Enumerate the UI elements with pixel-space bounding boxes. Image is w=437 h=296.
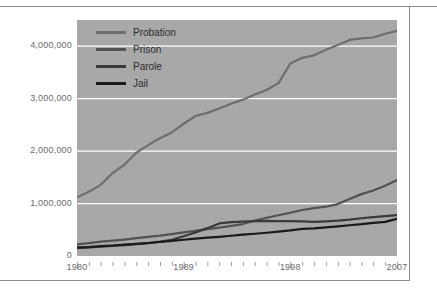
series-line-parole	[77, 215, 397, 248]
y-tick-label: 4,000,000	[4, 40, 72, 50]
x-tick-label: 2007	[387, 262, 408, 272]
x-tick-label: 1989	[173, 262, 194, 272]
legend-swatch-probation	[96, 31, 126, 34]
legend-swatch-prison	[96, 48, 126, 51]
chart-figure: 01,000,0002,000,0003,000,0004,000,000 19…	[0, 0, 437, 296]
x-tick-label: 1998	[280, 262, 301, 272]
legend-item-probation[interactable]: Probation	[96, 24, 226, 41]
y-tick-label: 1,000,000	[4, 198, 72, 208]
y-tick-label: 3,000,000	[4, 93, 72, 103]
legend-item-parole[interactable]: Parole	[96, 58, 226, 75]
legend-item-prison[interactable]: Prison	[96, 41, 226, 58]
y-tick-label: 0	[4, 250, 72, 260]
legend-label: Jail	[133, 78, 148, 89]
y-axis: 01,000,0002,000,0003,000,0004,000,000	[0, 0, 72, 296]
legend-label: Probation	[133, 27, 176, 38]
x-tick-label: 1980	[67, 262, 88, 272]
legend-label: Prison	[133, 44, 161, 55]
x-axis: 1980198919982007	[77, 262, 397, 282]
series-line-jail	[77, 219, 397, 248]
chart-legend: ProbationPrisonParoleJail	[96, 24, 226, 92]
legend-label: Parole	[133, 61, 162, 72]
legend-item-jail[interactable]: Jail	[96, 75, 226, 92]
legend-swatch-parole	[96, 65, 126, 68]
legend-swatch-jail	[96, 82, 126, 85]
y-tick-label: 2,000,000	[4, 145, 72, 155]
